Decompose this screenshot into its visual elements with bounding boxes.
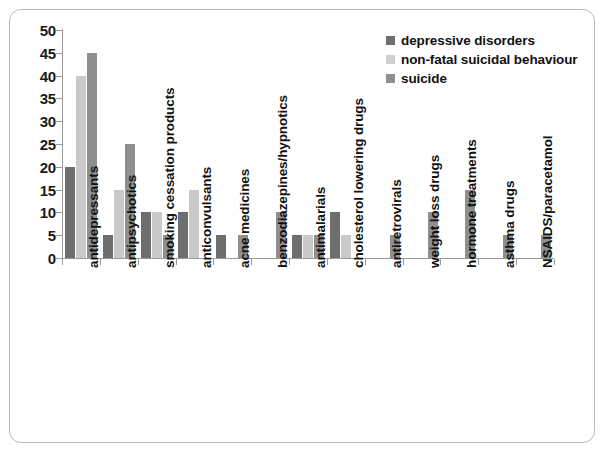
bar — [141, 212, 151, 258]
legend-label: depressive disorders — [401, 33, 535, 48]
legend-label: suicide — [401, 71, 447, 86]
legend-item: depressive disorders — [386, 31, 577, 49]
y-axis-tick-label: 15 — [40, 181, 56, 198]
x-axis-category-label: antidepressants — [86, 166, 101, 268]
x-axis-category-label: smoking cessation products — [162, 88, 177, 268]
x-axis-category-label: cholesterol lowering drugs — [351, 98, 366, 268]
y-axis-tick-label: 10 — [40, 204, 56, 221]
bar — [292, 235, 302, 258]
y-axis-tick-label: 45 — [40, 44, 56, 61]
bar — [65, 167, 75, 258]
bar — [178, 212, 188, 258]
y-axis-tick-label: 5 — [48, 227, 56, 244]
x-axis-category-label: weight loss drugs — [427, 155, 442, 268]
bar — [216, 235, 226, 258]
legend-label: non-fatal suicidal behaviour — [401, 52, 577, 67]
x-axis-category-label: antipsychotics — [124, 175, 139, 268]
y-axis-tick-labels: 50454035302520151050 — [18, 30, 56, 258]
y-axis-tick-label: 40 — [40, 67, 56, 84]
legend-item: non-fatal suicidal behaviour — [386, 50, 577, 68]
bar — [103, 235, 113, 258]
bar — [76, 76, 86, 258]
x-axis-category-label: hormone treatments — [464, 139, 479, 268]
legend-item: suicide — [386, 69, 577, 87]
x-axis-category-label: asthma drugs — [502, 181, 517, 268]
x-axis-category-label: NSAIDS/paracetamol — [540, 136, 555, 269]
bar — [114, 190, 124, 258]
x-axis-category-label: anticonvulsants — [199, 167, 214, 268]
x-axis-category-label: antimalarials — [313, 187, 328, 268]
legend-color-swatch — [386, 74, 395, 83]
x-axis-category-label: benzodiazepines/hypnotics — [275, 95, 290, 268]
bar — [330, 212, 340, 258]
bar — [303, 235, 313, 258]
y-axis-tick-label: 25 — [40, 136, 56, 153]
y-axis-tick-label: 20 — [40, 158, 56, 175]
y-axis-tick-label: 50 — [40, 22, 56, 39]
legend-color-swatch — [386, 55, 395, 64]
x-axis-category-label: antiretrovirals — [389, 179, 404, 268]
chart-legend: depressive disordersnon-fatal suicidal b… — [386, 31, 577, 88]
legend-color-swatch — [386, 36, 395, 45]
figure-container: 50454035302520151050 antidepressantsanti… — [0, 0, 607, 449]
y-axis-tick-label: 30 — [40, 113, 56, 130]
bar — [152, 212, 162, 258]
y-axis-tick-label: 35 — [40, 90, 56, 107]
x-axis-tick-mark — [62, 259, 63, 265]
y-axis-tick-label: 0 — [48, 250, 56, 267]
bar — [189, 190, 199, 258]
x-axis-category-label: acne medicines — [237, 169, 252, 268]
bar — [341, 235, 351, 258]
